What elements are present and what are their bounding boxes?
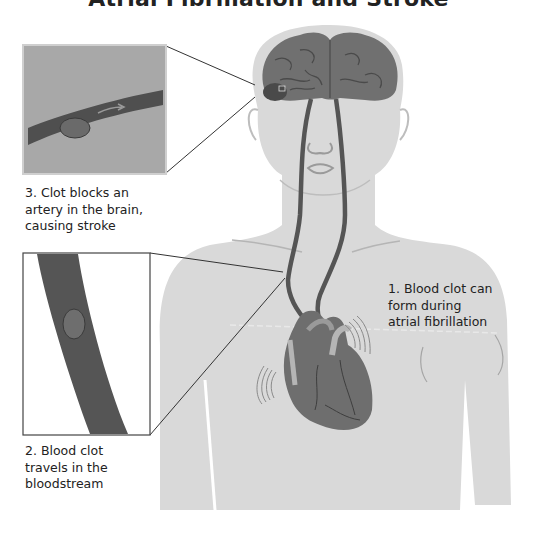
step-3-label: 3. Clot blocks an artery in the brain, c… bbox=[25, 185, 143, 235]
brain bbox=[263, 33, 398, 101]
step-2-label: 2. Blood clot travels in the bloodstream bbox=[25, 443, 108, 493]
brain-artery-inset bbox=[23, 45, 255, 174]
step-1-label: 1. Blood clot can form during atrial fib… bbox=[388, 281, 492, 331]
